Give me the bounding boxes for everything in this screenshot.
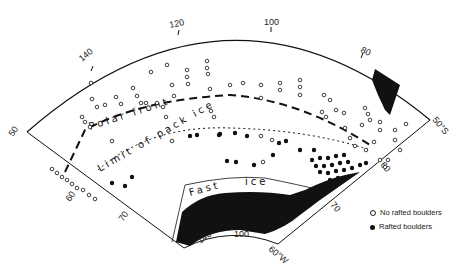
legend-item-no-rafted: No rafted boulders xyxy=(370,206,442,220)
lat-label-60-left: 60 xyxy=(63,189,77,203)
open-circle-icon xyxy=(370,210,376,216)
left-meridian-edge xyxy=(27,132,184,248)
polar-front-label: Polar front xyxy=(87,95,171,132)
no-rafted-boulder-sites xyxy=(50,59,408,201)
lat-label-50S-right: 50°S xyxy=(430,115,450,136)
lat-label-70-left: 70 xyxy=(116,209,130,223)
lon-label-100-outer: 100 xyxy=(264,17,279,27)
lat-label-50-left: 50 xyxy=(6,124,20,138)
fast-ice-label-ice: ice xyxy=(245,176,268,187)
lon-label-60W-inner: 60°W xyxy=(267,244,291,266)
legend-label-no-rafted: No rafted boulders xyxy=(380,206,442,220)
tick-120 xyxy=(178,30,179,35)
lat-label-70-right: 70 xyxy=(328,200,342,214)
south-america-landmass xyxy=(372,69,400,115)
map-legend: No rafted boulders Rafted boulders xyxy=(370,206,442,234)
legend-label-rafted: Rafted boulders xyxy=(379,220,432,234)
tick-140 xyxy=(91,66,93,71)
filled-circle-icon xyxy=(370,225,375,230)
lon-label-140-outer: 140 xyxy=(77,46,95,63)
lon-label-120-outer: 120 xyxy=(168,17,185,30)
lon-label-80-outer: 80 xyxy=(359,45,372,58)
legend-item-rafted: Rafted boulders xyxy=(370,220,442,234)
